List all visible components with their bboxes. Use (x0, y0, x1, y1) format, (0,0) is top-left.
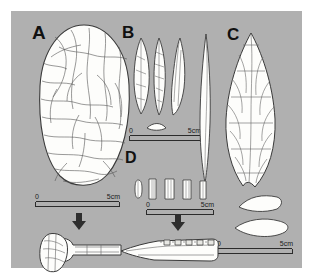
scale-a-line (35, 202, 120, 207)
derivative-c-cross-section-1 (237, 193, 285, 213)
artifact-c-leaf-point (223, 31, 279, 189)
figure-plate: A (11, 11, 302, 268)
panel-label-d: D (125, 150, 137, 166)
artifact-b-points (131, 36, 189, 116)
artifact-d-microliths (135, 178, 210, 200)
artifact-a-oval-axe (37, 23, 132, 191)
scale-b-line (129, 136, 201, 141)
artifact-c-profile (195, 33, 217, 185)
scale-a-zero: 0 (35, 193, 39, 200)
derivative-c-cross-section-2 (233, 217, 291, 239)
scale-c-far: 5cm (280, 240, 293, 247)
scale-d-zero: 0 (146, 201, 150, 208)
derivative-d-composite-tool (120, 233, 221, 265)
arrow-a-to-haft (71, 213, 87, 230)
scale-b-zero: 0 (129, 127, 133, 134)
arrow-d-to-composite (170, 214, 186, 231)
scale-c-line (217, 249, 293, 254)
derivative-a-hafted-axe (35, 231, 121, 274)
scale-d-far: 5cm (201, 201, 214, 208)
scale-a-far: 5cm (107, 193, 120, 200)
